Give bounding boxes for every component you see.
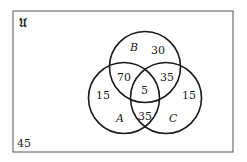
region-a-and-b: 70 (117, 71, 131, 84)
universe-label: 𝔘 (19, 16, 27, 30)
set-label-c: C (169, 112, 178, 125)
region-a-and-c: 35 (138, 110, 152, 123)
region-only-a: 15 (96, 89, 110, 102)
venn-diagram: 𝔘 B A C 30 70 35 5 15 15 35 45 (0, 0, 247, 162)
region-only-b: 30 (151, 44, 165, 57)
set-label-b: B (129, 41, 138, 54)
region-outside: 45 (17, 137, 31, 150)
set-label-a: A (115, 112, 124, 125)
region-b-and-c: 35 (160, 71, 174, 84)
region-only-c: 15 (182, 89, 196, 102)
region-all-three: 5 (141, 84, 148, 97)
